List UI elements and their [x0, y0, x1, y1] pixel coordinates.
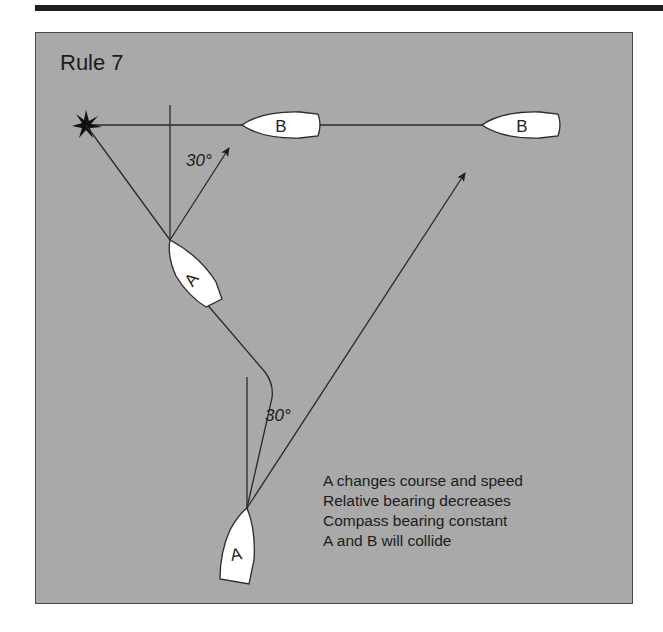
note-line: Relative bearing decreases [323, 491, 523, 511]
a1-bearing-line [86, 125, 170, 240]
a2-bearing-arrow [247, 173, 465, 508]
boat-a-upper: A [169, 240, 222, 307]
collision-star-icon [72, 110, 102, 138]
upper-angle-label: 30° [186, 151, 212, 170]
lower-angle-label: 30° [265, 406, 291, 425]
explanation-notes: A changes course and speed Relative bear… [323, 471, 523, 551]
svg-text:B: B [516, 117, 527, 136]
note-line: Compass bearing constant [323, 511, 523, 531]
boat-b-first: B [242, 112, 320, 138]
boat-b-second: B [482, 112, 560, 138]
note-line: A changes course and speed [323, 471, 523, 491]
svg-text:B: B [275, 117, 286, 136]
boat-a-lower: A [220, 508, 254, 584]
a-course-track [205, 302, 272, 508]
note-line: A and B will collide [323, 531, 523, 551]
